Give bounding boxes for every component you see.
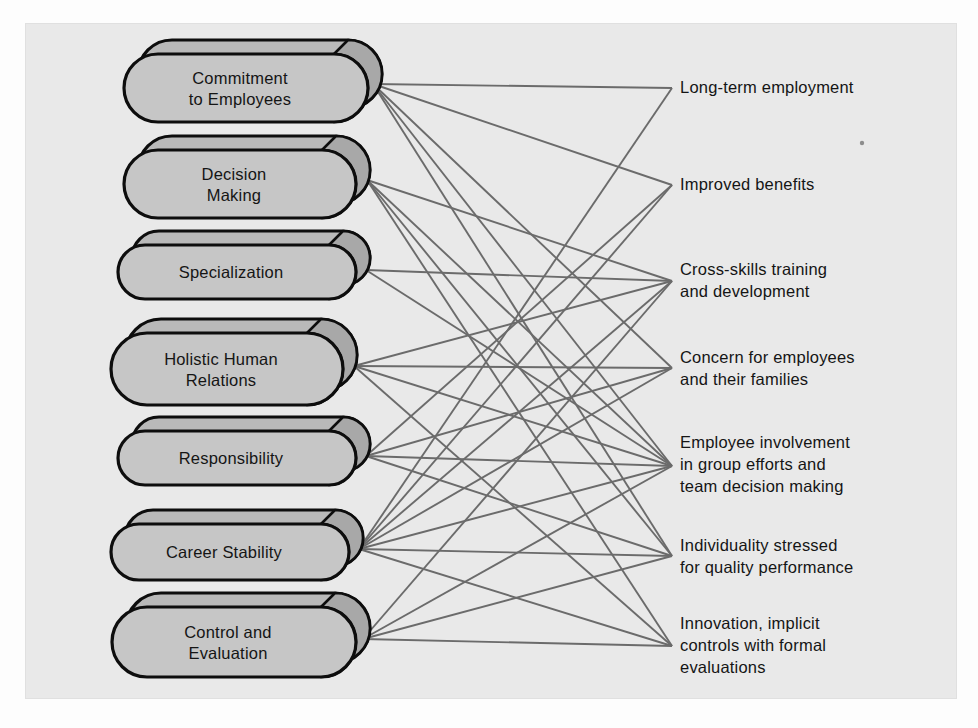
right-outcomes-group: Long-term employmentImproved benefitsCro… — [680, 78, 855, 676]
connection-line — [354, 366, 672, 368]
paper-speck — [860, 141, 864, 145]
node-front-face — [124, 54, 368, 122]
process-node-specialization[interactable]: Specialization — [118, 231, 370, 299]
node-label: Career Stability — [166, 543, 283, 561]
connection-line — [363, 556, 672, 639]
node-front-face — [111, 333, 343, 405]
left-nodes-group: Commitmentto EmployeesDecisionMakingSpec… — [111, 40, 382, 677]
outcome-label-long-term-employment: Long-term employment — [680, 78, 854, 96]
connection-lines-group — [354, 84, 672, 646]
diagram-canvas: Commitmentto EmployeesDecisionMakingSpec… — [0, 0, 978, 728]
connection-line — [359, 368, 672, 549]
outcome-label-employee-involvement-in-group-efforts-and-team-decision-making: Employee involvementin group efforts and… — [680, 433, 850, 495]
figure-root: Commitmentto EmployeesDecisionMakingSpec… — [0, 0, 978, 728]
connection-line — [359, 88, 672, 549]
connection-line — [367, 180, 672, 646]
process-node-responsibility[interactable]: Responsibility — [118, 417, 370, 485]
connection-line — [373, 84, 672, 185]
process-node-commitment-to-employees[interactable]: Commitmentto Employees — [124, 40, 382, 122]
node-front-face — [124, 150, 356, 218]
process-node-holistic-human-relations[interactable]: Holistic HumanRelations — [111, 319, 357, 405]
outcome-label-innovation-implicit-controls-with-formal-evaluations: Innovation, implicitcontrols with formal… — [680, 614, 826, 676]
outcome-label-concern-for-employees-and-their-families: Concern for employeesand their families — [680, 348, 855, 388]
connection-line — [354, 366, 672, 646]
connection-line — [363, 281, 672, 639]
connection-line — [363, 639, 672, 646]
node-label: Responsibility — [179, 449, 284, 467]
process-node-control-and-evaluation[interactable]: Control andEvaluation — [112, 593, 370, 677]
connection-line — [373, 84, 672, 88]
paper-speck-group — [860, 141, 864, 145]
outcome-label-individuality-stressed-for-quality-performance: Individuality stressedfor quality perfor… — [680, 536, 853, 576]
connection-line — [359, 549, 672, 556]
outcome-label-improved-benefits: Improved benefits — [680, 175, 815, 193]
node-front-face — [112, 607, 356, 677]
connection-line — [363, 466, 672, 639]
outcome-label-cross-skills-training-and-development: Cross-skills trainingand development — [680, 260, 827, 300]
process-node-decision-making[interactable]: DecisionMaking — [124, 136, 370, 218]
process-node-career-stability[interactable]: Career Stability — [111, 510, 363, 580]
connection-line — [367, 180, 672, 281]
node-label: Specialization — [179, 263, 284, 281]
